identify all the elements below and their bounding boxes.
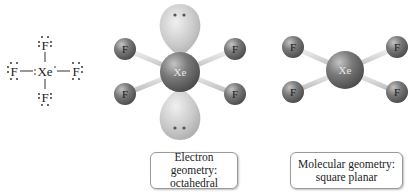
octahedral-model: F F F F Xe	[114, 4, 246, 140]
lewis-xe: Xe	[37, 64, 52, 79]
f-label: F	[394, 41, 400, 53]
caption-line: square planar	[291, 171, 402, 184]
caption-line: Electron geometry:	[151, 151, 237, 177]
lewis-structure: F Xe F F F	[7, 36, 83, 106]
molecular-geometry-caption: Molecular geometry: square planar	[290, 152, 403, 189]
xe-label: Xe	[174, 66, 187, 78]
xe-label: Xe	[339, 64, 352, 76]
f-label: F	[122, 43, 128, 55]
lone-pair-lobe-bottom	[160, 88, 201, 140]
f-label: F	[232, 43, 238, 55]
lewis-f-left: F	[10, 64, 17, 79]
lewis-f-top: F	[41, 38, 48, 53]
f-label: F	[290, 86, 296, 98]
f-label: F	[122, 88, 128, 100]
caption-line: Molecular geometry:	[291, 158, 402, 171]
square-planar-model: F F F F Xe	[282, 36, 408, 103]
electron-geometry-caption: Electron geometry: octahedral	[150, 152, 238, 189]
f-label: F	[232, 88, 238, 100]
f-label: F	[290, 41, 296, 53]
lone-pair-lobe-top	[160, 4, 201, 56]
caption-line: octahedral	[151, 177, 237, 190]
f-label: F	[394, 86, 400, 98]
lewis-f-bottom: F	[41, 90, 48, 105]
lewis-f-right: F	[72, 64, 79, 79]
